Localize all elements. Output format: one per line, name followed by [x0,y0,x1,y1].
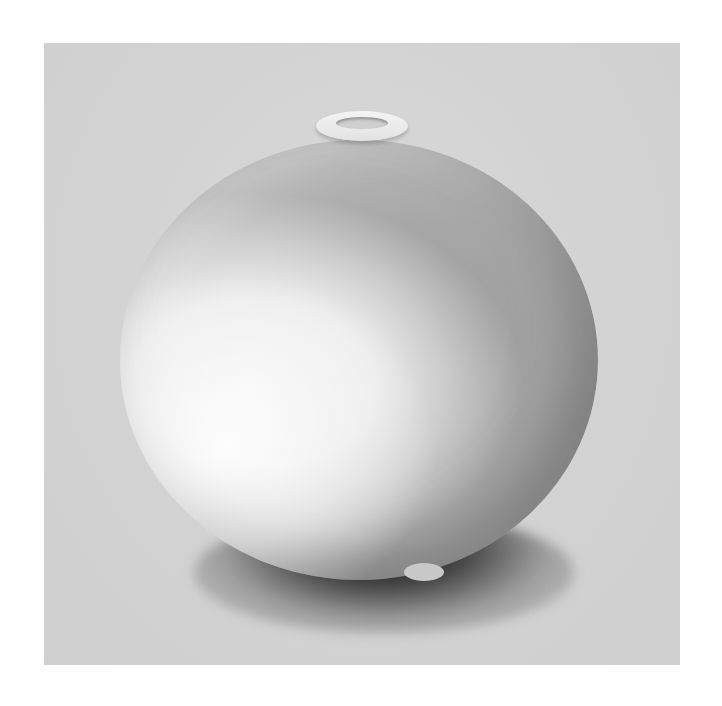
vase-photograph [44,43,680,665]
vase-foot [404,563,444,581]
vase-opening [336,117,388,129]
white-glaze-area [120,140,598,580]
